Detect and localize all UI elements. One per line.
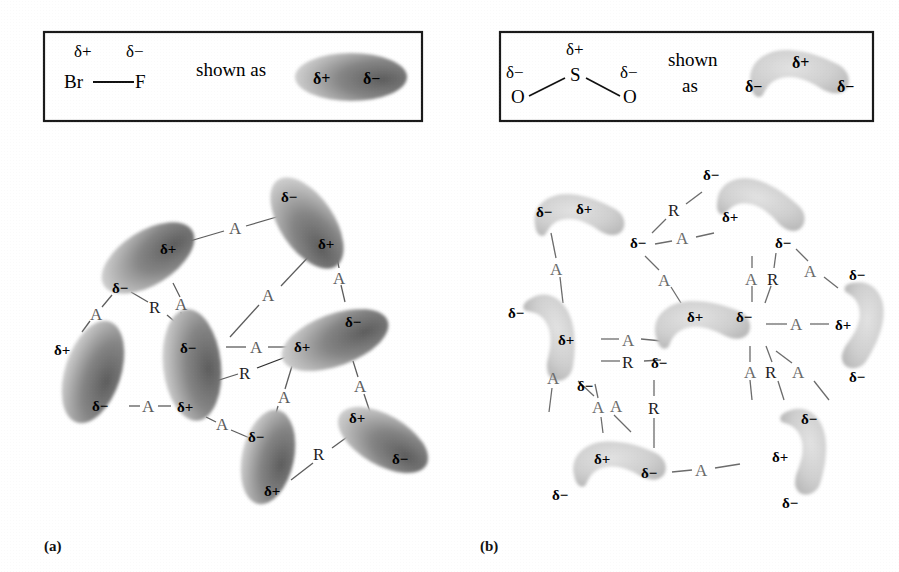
legend-box-b: δ+ S δ− O δ− O shown as δ− δ+ δ− — [500, 32, 873, 121]
attraction-label: A — [804, 262, 817, 281]
attraction-label: A — [610, 397, 623, 416]
legend-b-delta-minus-right: δ− — [620, 63, 638, 82]
delta-minus-label: δ− — [248, 429, 264, 445]
delta-minus-label: δ− — [112, 280, 128, 296]
bond-line — [595, 384, 598, 398]
delta-minus-label: δ− — [651, 355, 667, 371]
legend-a-ellipse-delta-minus: δ− — [363, 70, 380, 87]
bond-line — [102, 295, 112, 307]
bond-line — [551, 233, 556, 258]
repulsion-label: R — [622, 353, 634, 372]
legend-b-delta-minus-left: δ− — [506, 63, 524, 82]
attraction-label: A — [142, 397, 155, 416]
delta-plus-label: δ+ — [576, 201, 592, 217]
attraction-label: A — [658, 271, 671, 290]
legend-b-atom-s: S — [570, 64, 581, 85]
delta-minus-label: δ− — [577, 378, 593, 394]
bond-line — [672, 470, 692, 472]
delta-plus-label: δ+ — [835, 317, 851, 333]
delta-plus-label: δ+ — [558, 332, 574, 348]
legend-b-boom-delta-plus: δ+ — [792, 54, 809, 71]
legend-b-as-text: as — [682, 75, 698, 96]
delta-plus-label: δ+ — [722, 209, 738, 225]
delta-plus-label: δ+ — [594, 451, 610, 467]
repulsion-label: R — [239, 364, 251, 383]
attraction-label: A — [550, 260, 563, 279]
attraction-label: A — [250, 338, 263, 357]
attraction-label: A — [90, 305, 103, 324]
delta-minus-label: δ− — [508, 305, 524, 321]
dipole-boomerang — [714, 171, 812, 237]
repulsion-label: R — [765, 363, 777, 382]
delta-minus-label: δ− — [849, 369, 865, 385]
molecule-b7: δ+ δ− δ− — [552, 438, 667, 503]
delta-plus-label: δ+ — [294, 339, 310, 355]
attraction-label: A — [262, 286, 275, 305]
bond-line — [230, 305, 259, 337]
legend-b-delta-plus: δ+ — [566, 40, 584, 59]
molecule-a1: δ+ δ− — [90, 208, 207, 309]
bond-line — [645, 256, 659, 270]
bond-line — [776, 351, 792, 363]
bond-line — [353, 361, 358, 377]
attraction-label: A — [744, 363, 757, 382]
bond-line — [291, 463, 313, 480]
legend-a-delta-plus: δ+ — [74, 42, 92, 61]
attraction-label: A — [695, 461, 708, 480]
bond-line — [655, 241, 672, 244]
bond-line — [774, 253, 776, 268]
attraction-label: A — [622, 331, 635, 350]
bond-line — [206, 417, 216, 422]
legend-a-dipole-ellipse — [295, 53, 407, 101]
legend-b-boom-delta-minus-right: δ− — [837, 78, 854, 95]
figure-canvas: δ+ δ− Br F shown as δ+ δ− δ+ S δ− O δ− O… — [0, 0, 899, 572]
attraction-label: A — [547, 369, 560, 388]
delta-minus-label: δ− — [92, 398, 108, 414]
bond-line — [750, 380, 752, 400]
panel-label-a: (a) — [44, 538, 62, 555]
repulsion-label: R — [313, 445, 325, 464]
bond-line — [778, 381, 784, 400]
delta-minus-label: δ− — [345, 314, 361, 330]
bond-line — [715, 464, 740, 468]
legend-a-shown-as-text: shown as — [196, 59, 266, 80]
molecule-b1: δ− δ+ δ− — [534, 193, 646, 251]
delta-minus-label: δ− — [552, 487, 568, 503]
repulsion-label: R — [149, 298, 161, 317]
delta-plus-label: δ+ — [264, 483, 280, 499]
delta-plus-label: δ+ — [177, 399, 193, 415]
delta-minus-label: δ− — [630, 235, 646, 251]
bond-line — [696, 233, 714, 237]
bond-line — [549, 388, 552, 412]
bond-line — [560, 277, 563, 303]
delta-minus-label: δ− — [849, 267, 865, 283]
delta-plus-label: δ+ — [160, 241, 176, 257]
attraction-label: A — [792, 363, 805, 382]
molecule-b2: δ− δ+ δ− — [703, 167, 812, 251]
legend-b-boom-delta-minus-left: δ− — [745, 78, 762, 95]
molecule-a2: δ− δ+ — [256, 165, 359, 281]
legend-b-atom-o-right: O — [623, 86, 637, 107]
delta-minus-label: δ− — [536, 204, 552, 220]
delta-minus-label: δ− — [703, 167, 719, 183]
bond-line — [796, 249, 808, 261]
attraction-label: A — [676, 229, 689, 248]
dipole-ellipse — [273, 296, 396, 383]
delta-minus-label: δ− — [180, 340, 196, 356]
legend-a-atom-br: Br — [64, 71, 84, 92]
bond-line — [601, 417, 603, 433]
delta-minus-label: δ− — [782, 495, 798, 511]
legend-a-delta-minus: δ− — [126, 42, 144, 61]
attraction-label: A — [216, 415, 229, 434]
attraction-label: A — [745, 270, 758, 289]
molecule-a3: δ+ δ− — [50, 313, 136, 431]
delta-minus-label: δ− — [801, 411, 817, 427]
delta-minus-label: δ− — [641, 465, 657, 481]
bond-line — [671, 287, 681, 303]
dipole-ellipse — [256, 165, 359, 281]
legend-a-ellipse-delta-plus: δ+ — [313, 70, 330, 87]
panel-a-network: δ+ δ− δ− δ+ δ+ δ− δ− δ+ δ+ δ− δ− δ+ — [50, 165, 439, 510]
attraction-label: A — [175, 295, 188, 314]
legend-b-shown-text: shown — [668, 49, 718, 70]
delta-plus-label: δ+ — [318, 236, 334, 252]
